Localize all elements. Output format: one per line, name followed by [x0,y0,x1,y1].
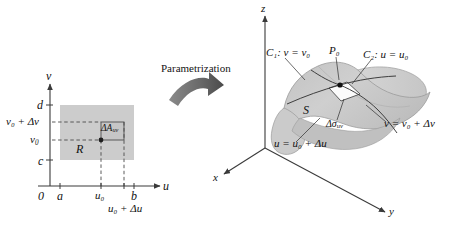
u0-plus-du-label: u₀ + Δu [108,203,142,214]
delta-sigma-base: Δσ [326,118,337,129]
point-p0-label: P₀ [329,45,340,56]
parametrization-label: Parametrization [161,62,231,74]
v0-plus-dv-label: v₀ + Δv [6,116,39,127]
v-tick-c-label: c [38,155,43,167]
y-axis-label: y [389,206,394,217]
surface-s-label: S [303,104,309,116]
delta-sigma-subscript: uv [337,122,343,129]
delta-a-uv-label: ΔAuv [101,124,118,134]
uv-sample-point [99,138,104,143]
v-axis-label: v [46,70,51,82]
parametrization-arrow-icon [169,72,224,106]
u-tick-a-label: a [57,190,63,202]
v0-label: v0 [30,134,39,147]
edge-label-v: v = v₀ + Δv [384,118,435,129]
u-axis-label: u [163,180,169,192]
curve-c2-label: C₂: u = u₀ [363,49,408,60]
parametrization-figure: v u 0 d c a b v₀ + Δv v0 u₀ u₀ + Δu R ΔA… [0,0,457,237]
u0-label: u₀ [95,190,104,201]
x-axis-label: x [213,172,218,183]
delta-sigma-uv-label: Δσuv [326,119,343,130]
curve-c1-label: C₁: v = v₀ [266,47,310,58]
v-tick-d-label: d [37,99,43,111]
edge-label-u: u = u₀ + Δu [274,138,327,149]
delta-a-base: ΔA [101,123,112,133]
point-p0 [337,82,342,87]
u-tick-b-label: b [131,190,137,202]
origin-label: 0 [38,190,44,202]
v0-subscript: 0 [35,139,39,147]
delta-a-subscript: uv [112,126,118,133]
region-r-label: R [76,143,83,155]
z-axis-label: z [261,3,265,14]
